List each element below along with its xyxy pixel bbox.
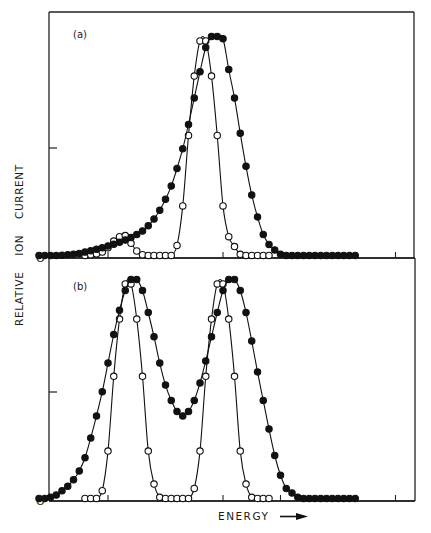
filled-circle-marker [260,231,266,237]
filled-circle-marker [289,490,295,496]
filled-circle-marker [139,287,145,293]
filled-circle-marker [249,338,255,344]
series-filled-circles [36,276,359,501]
open-circle-marker [214,132,220,138]
filled-circle-marker [220,287,226,293]
filled-circle-marker [203,358,209,364]
filled-circle-marker [174,165,180,171]
filled-circle-marker [249,192,255,198]
filled-circle-marker [162,196,168,202]
filled-circle-marker [76,468,82,474]
filled-circle-marker [260,397,266,403]
filled-circle-marker [134,276,140,282]
filled-circle-marker [168,397,174,403]
filled-circle-marker [162,382,168,388]
filled-circle-marker [157,360,163,366]
filled-circle-marker [65,483,71,489]
filled-circle-marker [59,488,65,494]
filled-circle-marker [151,334,157,340]
filled-circle-marker [88,435,94,441]
panel-a-label: (a) [73,29,87,40]
open-circle-marker [243,481,249,487]
filled-circle-marker [111,331,117,337]
filled-circle-marker [214,309,220,315]
filled-circle-marker [237,287,243,293]
filled-circle-marker [208,334,214,340]
filled-circle-marker [226,66,232,72]
open-circle-marker [185,495,191,501]
filled-circle-marker [70,477,76,483]
panel-a-series [36,33,359,258]
filled-circle-marker [116,307,122,313]
filled-circle-marker [266,241,272,247]
filled-circle-marker [105,360,111,366]
filled-circle-marker [203,44,209,50]
open-circle-marker [266,495,272,501]
open-circle-marker [220,203,226,209]
series-filled-circles [36,33,359,258]
filled-circle-marker [231,95,237,101]
open-circle-marker [191,73,197,79]
open-circle-marker [180,203,186,209]
open-circle-marker [197,448,203,454]
open-circle-marker [237,448,243,454]
filled-circle-marker [185,408,191,414]
open-circle-marker [151,481,157,487]
open-circle-marker [208,316,214,322]
filled-circle-marker [157,207,163,213]
open-circle-marker [134,316,140,322]
filled-circle-marker [283,485,289,491]
filled-circle-marker [243,309,249,315]
x-axis-label: ENERGY [218,510,269,522]
panel-b-series [36,276,359,501]
filled-circle-marker [180,413,186,419]
filled-circle-marker [231,276,237,282]
x-ticks-panel-b [49,495,415,501]
series-open-circles [82,37,272,259]
zero-label-a: O [36,252,45,265]
filled-circle-marker [197,69,203,75]
filled-circle-marker [122,287,128,293]
filled-circle-marker [145,223,151,229]
filled-circle-marker [168,183,174,189]
open-circle-marker [134,248,140,254]
filled-circle-marker [151,216,157,222]
filled-circle-marker [99,389,105,395]
open-circle-marker [174,242,180,248]
filled-circle-marker [191,397,197,403]
filled-circle-marker [243,163,249,169]
panel-b-label: (b) [73,281,87,292]
filled-circle-marker [197,380,203,386]
open-circle-marker [99,488,105,494]
open-circle-marker [231,373,237,379]
open-circle-marker [105,448,111,454]
filled-circle-marker [93,413,99,419]
open-circle-marker [168,252,174,258]
open-circle-marker [111,373,117,379]
open-circle-marker [231,243,237,249]
filled-circle-marker [174,408,180,414]
filled-circle-marker [237,130,243,136]
filled-circle-marker [53,492,59,498]
open-circle-marker [266,252,272,258]
filled-circle-marker [145,309,151,315]
filled-circle-marker [185,121,191,127]
filled-circle-marker [352,252,358,258]
arrow-right-icon [280,513,308,520]
figure: (a) (b) O O RELATIVE ION CURRENT ENERGY [0,0,431,533]
open-circle-marker [139,373,145,379]
filled-circle-marker [180,146,186,152]
open-circle-marker [226,234,232,240]
open-circle-marker [208,73,214,79]
open-circle-marker [226,316,232,322]
filled-circle-marker [272,452,278,458]
filled-circle-marker [277,472,283,478]
open-circle-marker [93,495,99,501]
filled-circle-marker [139,228,145,234]
open-circle-marker [203,373,209,379]
panel-b-frame [49,258,415,501]
filled-circle-marker [220,36,226,42]
open-circle-marker [191,485,197,491]
filled-circle-marker [266,426,272,432]
open-circle-marker [145,448,151,454]
